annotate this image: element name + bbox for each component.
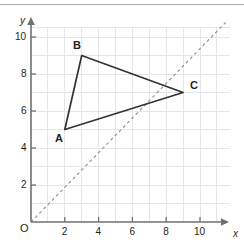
line-y-equals-x [31,20,228,222]
vertex-label-c: C [190,80,198,91]
x-axis-arrow [221,218,229,226]
x-tick-label-8: 8 [163,227,169,237]
x-axis-label: x [233,229,238,239]
plot-canvas [0,0,244,252]
y-axis-label: y [20,16,25,26]
coordinate-plane-figure: 2 4 6 8 10 2 4 6 8 10 O x y A B C [0,0,244,252]
y-tick-label-6: 6 [21,106,27,116]
x-tick-label-4: 4 [96,227,102,237]
y-tick-label-2: 2 [21,180,27,190]
vertex-label-b: B [73,40,81,51]
y-axis-arrow [27,17,35,25]
vertex-label-a: A [55,133,63,144]
origin-label: O [20,223,29,234]
y-tick-label-8: 8 [21,69,27,79]
y-tick-label-4: 4 [21,143,27,153]
x-tick-label-10: 10 [194,227,205,237]
y-tick-label-10: 10 [15,32,26,42]
axis-lines [31,24,222,222]
x-tick-label-6: 6 [129,227,135,237]
x-tick-label-2: 2 [62,227,68,237]
grid-lines [31,27,230,222]
